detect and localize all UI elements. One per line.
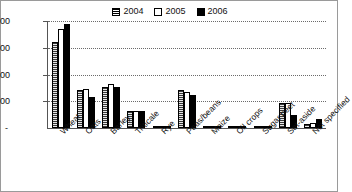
x-label-cell-2: Barley <box>98 129 123 191</box>
y-tick-mark-1 <box>43 48 47 49</box>
x-label-cell-5: Peas/beans <box>173 129 198 191</box>
x-label-cell-3: Triticale <box>123 129 148 191</box>
legend-label-2006: 2006 <box>208 7 228 16</box>
x-label-cell-10: Not specified <box>300 129 325 191</box>
bar-2006-wheat <box>64 24 70 128</box>
bar-group-wheat <box>48 21 73 128</box>
y-tick-mark-3 <box>43 101 47 102</box>
legend-swatch-2005 <box>154 8 162 16</box>
x-label-cell-7: Oil crops <box>224 129 249 191</box>
legend-label-2005: 2005 <box>165 7 185 16</box>
y-tick-label-4: - <box>5 123 8 133</box>
legend-item-2006: 2006 <box>197 7 228 16</box>
x-label-cell-8: Sugar beet <box>249 129 274 191</box>
y-tick-label-2: 10,000 <box>0 70 10 80</box>
x-label-cell-0: Wheat <box>47 129 72 191</box>
legend-item-2004: 2004 <box>112 7 143 16</box>
x-label-cell-9: Set-aside <box>274 129 299 191</box>
chart-legend: 200420052006 <box>1 7 339 16</box>
x-axis-labels: WheatOatsBarleyTriticaleRyePeas/beansMai… <box>47 129 325 191</box>
legend-label-2004: 2004 <box>123 7 143 16</box>
y-tick-label-3: 5,000 <box>0 96 10 106</box>
legend-swatch-2004 <box>112 8 120 16</box>
x-label-cell-1: Oats <box>72 129 97 191</box>
y-tick-label-1: 15,000 <box>0 43 10 53</box>
x-label-cell-4: Rye <box>148 129 173 191</box>
bar-group-triticale <box>124 21 149 128</box>
bar-group-peas-beans <box>174 21 199 128</box>
bar-group-oil-crops <box>225 21 250 128</box>
legend-swatch-2006 <box>197 8 205 16</box>
y-tick-mark-0 <box>43 21 47 22</box>
y-tick-mark-2 <box>43 75 47 76</box>
legend-item-2005: 2005 <box>154 7 185 16</box>
y-tick-label-0: 20,000 <box>0 16 10 26</box>
bar-group-barley <box>99 21 124 128</box>
x-label-cell-6: Maize <box>199 129 224 191</box>
